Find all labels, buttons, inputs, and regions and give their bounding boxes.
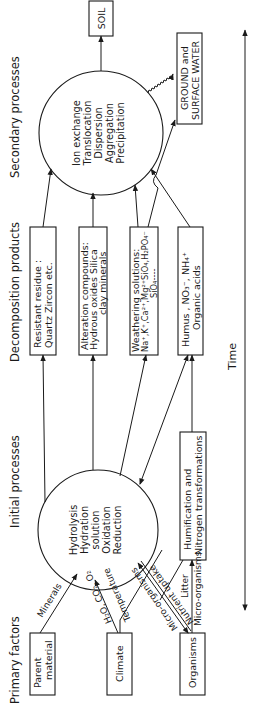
humification-line1: Humification and	[182, 469, 193, 550]
resistant-line1: Resistant residue :	[32, 260, 43, 348]
process-translocation: Translocation	[82, 101, 93, 167]
parent-line1: Parent	[32, 657, 43, 688]
box-resistant-residue: Resistant residue : Quartz Zircon etc.	[30, 227, 56, 355]
circle-secondary-processes: Ion exchange Translocation Dispersion Ag…	[39, 71, 163, 195]
header-primary-factors: Primary factors	[8, 616, 22, 704]
process-dispersion: Dispersion	[93, 107, 104, 159]
process-reduction: Reduction	[112, 506, 123, 555]
header-secondary-processes: Secondary processes	[8, 56, 22, 178]
header-decomposition-products: Decomposition products	[8, 222, 22, 362]
box-climate: Climate	[107, 633, 132, 695]
time-axis: Time	[226, 30, 245, 610]
climate-label: Climate	[114, 645, 125, 682]
process-ion-exchange: Ion exchange	[71, 100, 82, 166]
label-micro-organisms-b: Micro-organisms	[193, 551, 203, 626]
parent-line2: material	[43, 640, 54, 680]
process-precipitation: Precipitation	[115, 102, 126, 163]
box-ground-surface-water: GROUND and SURFACE WATER	[177, 33, 202, 124]
box-humification: Humification and Nitrogen transformation…	[180, 432, 206, 560]
label-minerals: Minerals	[35, 581, 64, 619]
box-soil: SOIL	[89, 1, 113, 36]
rotated-diagram: Primary factors Initial processes Decomp…	[0, 0, 277, 710]
process-solution: solution	[90, 511, 101, 550]
header-initial-processes: Initial processes	[8, 435, 22, 528]
humus-line1: Humus , NO₃⁻, NH₄⁺	[180, 252, 191, 347]
time-label: Time	[226, 343, 239, 371]
box-humus: Humus , NO₃⁻, NH₄⁺ Organic acids	[178, 227, 203, 355]
process-hydrolysis: Hydrolysis	[68, 505, 79, 556]
box-parent-material: Parent material	[30, 633, 55, 695]
box-alteration-compounds: Alteration compounds: Hydrous oxides Sil…	[79, 227, 108, 355]
soil-label: SOIL	[96, 7, 107, 29]
humification-line2: Nitrogen transformations	[193, 436, 204, 555]
weathering-line3: SiO₄----	[149, 269, 159, 298]
alteration-line3: clay minerals	[97, 252, 108, 315]
organisms-label: Organisms	[187, 637, 198, 688]
resistant-line2: Quartz Zircon etc.	[43, 262, 54, 348]
process-oxidation: Oxidation	[101, 506, 112, 553]
process-hydration: Hydration	[79, 506, 90, 554]
humus-line2: Organic acids	[191, 265, 202, 330]
label-litter: Litter	[180, 574, 190, 598]
water-line2: SURFACE WATER	[190, 40, 201, 120]
box-organisms: Organisms	[180, 633, 205, 695]
box-weathering-solutions: Weathering solutions: Na⁺,K⁺,Ca²⁺,Mg²⁺Si…	[130, 227, 159, 355]
water-line1: GROUND and	[179, 46, 190, 110]
process-aggregation: Aggregation	[104, 103, 115, 163]
